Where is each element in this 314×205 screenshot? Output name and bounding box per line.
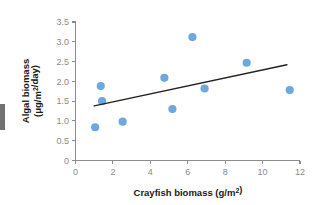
x-axis-title: Crayfish biomass (g/m2) <box>134 184 243 198</box>
x-tick-label: 2 <box>110 167 115 177</box>
y-axis-title-line2: (μg/m2/day) <box>29 65 43 117</box>
x-tick-group: 024681012 <box>73 161 305 177</box>
x-tick-label: 6 <box>185 167 190 177</box>
y-tick-label: 3.0 <box>56 37 69 47</box>
scatter-point <box>119 118 127 126</box>
scatter-point <box>168 105 176 113</box>
data-point-group <box>91 33 294 131</box>
scatter-point <box>286 86 294 94</box>
scatter-plot-figure: 00.51.01.52.02.53.03.5 024681012 Crayfis… <box>0 0 314 205</box>
scatter-point <box>200 84 208 92</box>
y-tick-label: 3.5 <box>56 17 69 27</box>
y-tick-label: 0 <box>64 156 69 166</box>
x-tick-label: 8 <box>223 167 228 177</box>
regression-trend-line <box>94 65 287 106</box>
chart-canvas: 00.51.01.52.02.53.03.5 024681012 Crayfis… <box>0 0 314 205</box>
y-tick-label: 0.5 <box>56 136 69 146</box>
scatter-point <box>97 82 105 90</box>
axis-group <box>76 22 301 161</box>
x-tick-label: 4 <box>148 167 153 177</box>
scatter-point <box>188 33 196 41</box>
scatter-point <box>160 74 168 82</box>
x-tick-label: 12 <box>295 167 305 177</box>
y-tick-label: 1.5 <box>56 96 69 106</box>
y-tick-label: 2.0 <box>56 77 69 87</box>
y-tick-label: 1.0 <box>56 116 69 126</box>
scatter-point <box>91 123 99 131</box>
x-tick-label: 0 <box>73 167 78 177</box>
x-tick-label: 10 <box>258 167 268 177</box>
y-tick-label: 2.5 <box>56 57 69 67</box>
scatter-point <box>243 59 251 67</box>
y-tick-group: 00.51.01.52.02.53.03.5 <box>56 17 75 166</box>
